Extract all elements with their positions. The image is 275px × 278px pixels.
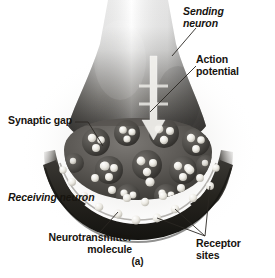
label-neurotransmitter-molecule: Neurotransmitter molecule xyxy=(12,232,132,255)
figure-caption: (a) xyxy=(0,256,275,267)
label-action-potential: Action potential xyxy=(196,54,239,77)
label-synaptic-gap: Synaptic gap xyxy=(8,115,72,127)
synapse-figure: Sending neuron Action potential Synaptic… xyxy=(0,0,275,278)
label-sending-neuron: Sending neuron xyxy=(183,6,224,29)
label-receiving-neuron: Receiving neuron xyxy=(8,192,95,204)
